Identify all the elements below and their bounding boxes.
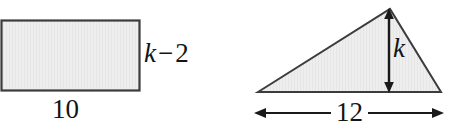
- rectangle-height-label: k−2: [144, 40, 189, 67]
- rectangle-shape: [2, 21, 140, 91]
- rectangle-width-label: 10: [52, 96, 79, 123]
- rectangle-height-variable: k: [144, 38, 156, 68]
- triangle-shape: [258, 9, 441, 92]
- figure-container: k−2 10 k 12: [0, 0, 449, 133]
- triangle-base-label: 12: [331, 99, 368, 126]
- triangle-height-label: k: [393, 35, 405, 62]
- rectangle-height-constant: 2: [175, 38, 189, 68]
- rectangle-height-operator: −: [156, 38, 175, 68]
